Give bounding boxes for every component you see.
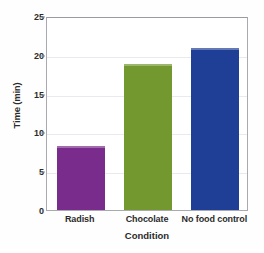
y-axis-tick-mark <box>41 17 45 18</box>
y-axis-tick-mark <box>41 94 45 95</box>
bar-highlight <box>191 48 239 50</box>
bar-chart: Time (min) 0510152025 RadishChocolateNo … <box>0 0 264 253</box>
bar <box>124 64 172 210</box>
x-axis-tick-label: Radish <box>65 214 94 224</box>
bar-highlight <box>57 146 105 148</box>
y-axis-tick-labels: 0510152025 <box>22 17 44 211</box>
bar <box>191 48 239 210</box>
bar <box>57 146 105 210</box>
y-axis-tick-label: 0 <box>39 206 44 216</box>
y-axis-title-text: Time (min) <box>12 83 23 129</box>
x-axis-tick-label: Chocolate <box>126 214 169 224</box>
x-axis-tick-labels: RadishChocolateNo food control <box>46 214 248 228</box>
x-axis-title: Condition <box>46 230 248 241</box>
x-axis-tick-label: No food control <box>182 214 248 224</box>
plot-area <box>46 17 248 211</box>
y-axis-tick-mark <box>41 55 45 56</box>
bar-highlight <box>124 64 172 66</box>
y-axis-tick-mark <box>41 172 45 173</box>
y-axis-tick-mark <box>41 133 45 134</box>
bars-layer <box>47 18 247 210</box>
